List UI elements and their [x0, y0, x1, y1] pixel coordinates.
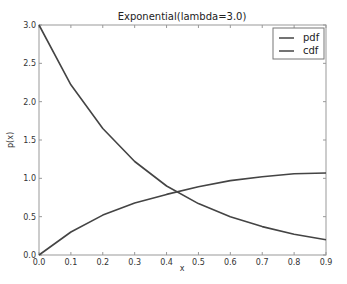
x-tick-label: 0.1 — [65, 258, 78, 267]
x-tick-label: 0.3 — [128, 258, 141, 267]
y-tick-label: 3.0 — [23, 21, 36, 30]
y-tick-label: 1.5 — [23, 136, 36, 145]
y-axis-label: p(x) — [6, 132, 15, 148]
legend-pdf-label: pdf — [303, 32, 320, 43]
legend-cdf-label: cdf — [303, 45, 319, 56]
y-tick-label: 0.5 — [23, 213, 36, 222]
chart-title: Exponential(lambda=3.0) — [118, 11, 247, 22]
x-tick-label: 0.8 — [288, 258, 301, 267]
x-tick-label: 0.7 — [256, 258, 269, 267]
y-tick-label: 2.5 — [23, 59, 36, 68]
x-tick-label: 0.9 — [320, 258, 333, 267]
chart: Exponential(lambda=3.0) 0.00.10.20.30.40… — [0, 0, 347, 284]
x-tick-label: 0.5 — [192, 258, 205, 267]
y-tick-label: 2.0 — [23, 98, 36, 107]
y-tick-label: 0.0 — [23, 251, 36, 260]
x-axis-label: x — [180, 264, 185, 273]
y-tick-label: 1.0 — [23, 174, 36, 183]
x-tick-label: 0.6 — [224, 258, 237, 267]
legend: pdf cdf — [273, 28, 324, 59]
x-tick-label: 0.2 — [96, 258, 109, 267]
x-tick-label: 0.4 — [160, 258, 173, 267]
